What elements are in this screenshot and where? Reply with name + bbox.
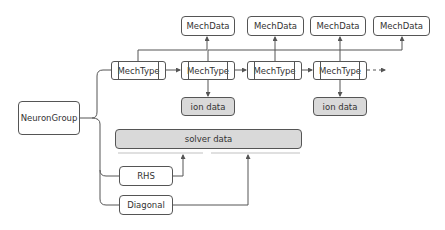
rhs-box: RHS [119, 166, 173, 186]
mechtype-label: MechType [117, 66, 159, 76]
mechdata-box-1: MechData [181, 16, 235, 36]
diagonal-box: Diagonal [119, 195, 173, 215]
ion-data-box-2: ion data [313, 97, 367, 116]
solver-data-label: solver data [185, 134, 233, 144]
mechtype-box-1: MechType [111, 61, 166, 80]
rhs-label: RHS [137, 171, 155, 181]
mechdata-label: MechData [187, 21, 230, 31]
mechtype-label: MechType [187, 66, 229, 76]
mechtype-box-2: MechType [181, 61, 235, 80]
ion-data-box-1: ion data [181, 97, 235, 116]
ion-data-label: ion data [191, 102, 226, 112]
mechtype-label: MechType [319, 66, 361, 76]
mechdata-label: MechData [254, 21, 297, 31]
ion-data-label: ion data [323, 102, 358, 112]
mechdata-label: MechData [317, 21, 360, 31]
mechtype-box-3: MechType [247, 61, 302, 80]
mechtype-box-4: MechType [313, 61, 367, 80]
neurongroup-label: NeuronGroup [21, 113, 78, 123]
neurongroup-box: NeuronGroup [18, 101, 80, 135]
mechdata-label: MechData [380, 21, 423, 31]
mechdata-box-4: MechData [373, 16, 430, 36]
mechdata-box-3: MechData [310, 16, 366, 36]
diagonal-label: Diagonal [127, 200, 165, 210]
mechtype-label: MechType [253, 66, 295, 76]
solver-data-box: solver data [115, 129, 302, 149]
mechdata-box-2: MechData [247, 16, 304, 36]
